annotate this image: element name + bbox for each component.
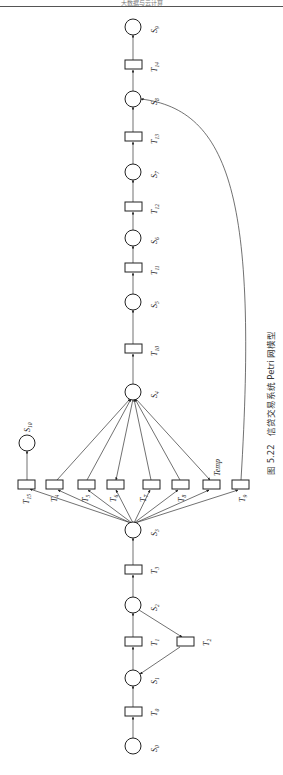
transition-t9	[232, 480, 249, 489]
transition-t7	[143, 480, 160, 489]
label-s10: S10	[23, 422, 33, 432]
transition-t3	[125, 565, 142, 574]
label-s7: S7	[150, 171, 160, 178]
place-s10	[19, 435, 35, 451]
label-s6: S6	[150, 237, 160, 244]
label-s9: S9	[150, 26, 160, 33]
label-t15: T15	[22, 494, 32, 504]
place-s5	[125, 294, 141, 310]
label-temp: Temp	[213, 459, 222, 476]
place-s8	[125, 91, 141, 107]
transition-t15	[18, 480, 35, 489]
label-s2: S2	[150, 604, 160, 611]
label-t12: T12	[150, 204, 160, 214]
label-t4: T4	[50, 495, 60, 502]
petri-net-diagram: S0 T0 S1 T1 T2 S2 T3 S3 T15 T4 T5 T6 T7 …	[0, 0, 283, 775]
label-t9: T9	[238, 495, 248, 502]
label-t2: T2	[202, 639, 212, 646]
place-s1	[125, 670, 141, 686]
place-s3	[125, 522, 141, 538]
label-t13: T13	[150, 134, 160, 144]
transition-t12	[125, 202, 142, 211]
label-t10: T10	[150, 346, 160, 356]
label-t8: T8	[177, 495, 187, 502]
transition-t0	[125, 707, 142, 716]
label-t14: T14	[150, 62, 160, 72]
label-t6: T6	[109, 495, 119, 502]
place-s7	[125, 164, 141, 180]
label-s4: S4	[150, 391, 160, 398]
transition-temp	[203, 480, 220, 489]
label-s8: S8	[150, 98, 160, 105]
label-s1: S1	[150, 677, 160, 684]
place-s9	[125, 19, 141, 35]
label-s0: S0	[150, 745, 160, 752]
transition-t13	[125, 132, 142, 141]
label-t3: T3	[150, 567, 160, 574]
figure-caption: 图 5.22信贷交易系统 Petri 网模型	[266, 331, 276, 475]
label-t1: T1	[150, 639, 160, 646]
transition-t8	[172, 480, 189, 489]
transition-t1	[125, 637, 142, 646]
transition-t2	[177, 637, 194, 646]
place-s2	[125, 597, 141, 613]
label-s3: S3	[150, 529, 160, 536]
transition-t11	[125, 263, 142, 272]
transition-t5	[78, 480, 95, 489]
label-t7: T7	[139, 495, 149, 502]
place-s6	[125, 230, 141, 246]
transition-t14	[125, 60, 142, 69]
transition-t10	[125, 344, 142, 353]
label-t11: T11	[150, 265, 160, 275]
transition-t6	[107, 480, 124, 489]
label-t5: T5	[81, 495, 91, 502]
label-t0: T0	[150, 709, 160, 716]
transition-t4	[46, 480, 63, 489]
place-s4	[125, 384, 141, 400]
label-s5: S5	[150, 301, 160, 308]
place-s0	[125, 738, 141, 754]
